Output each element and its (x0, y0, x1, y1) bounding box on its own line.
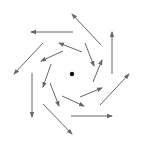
outer-arrow-5 (43, 104, 72, 134)
vortex-diagram (0, 0, 144, 148)
inner-arrow-15 (50, 83, 59, 106)
vector-field-svg (0, 0, 144, 148)
inner-arrow-10 (85, 43, 94, 66)
outer-arrow-1 (72, 14, 101, 45)
outer-arrow-3 (100, 74, 129, 105)
inner-arrow-11 (93, 60, 102, 82)
outer-arrow-7 (14, 43, 43, 74)
inner-arrow-8 (59, 43, 82, 52)
inner-arrow-9 (41, 51, 63, 61)
center-point (70, 72, 74, 76)
inner-arrow-12 (80, 88, 102, 97)
inner-arrow-13 (62, 96, 84, 106)
